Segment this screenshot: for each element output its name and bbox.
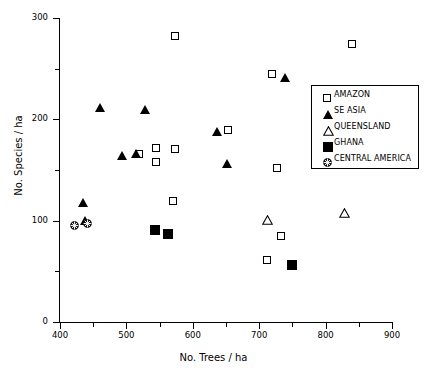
x-tick-minor [292, 323, 293, 327]
marker-circle-cross [323, 158, 332, 167]
x-tick-minor [359, 323, 360, 327]
marker-filled-square [150, 225, 160, 235]
legend-item-ghana[interactable]: GHANA [312, 134, 418, 150]
marker-filled-triangle [222, 159, 232, 168]
legend-item-amazon[interactable]: AMAZON [312, 86, 418, 102]
legend-label: SE ASIA [334, 106, 366, 115]
marker-open-square [263, 256, 271, 264]
x-tick-minor [160, 323, 161, 327]
y-tick [53, 221, 59, 222]
marker-filled-triangle [280, 73, 290, 82]
legend-marker-open-triangle-icon [320, 120, 334, 132]
x-tick-label: 500 [106, 331, 146, 340]
marker-open-square [171, 32, 179, 40]
y-tick-label: 0 [8, 317, 48, 326]
x-tick-label: 400 [40, 331, 80, 340]
y-axis-title: No. Species / ha [13, 76, 24, 236]
marker-filled-square [287, 260, 297, 270]
y-tick-minor [55, 271, 59, 272]
marker-circle-cross [83, 219, 92, 228]
x-tick-label: 900 [372, 331, 412, 340]
x-tick-label: 600 [173, 331, 213, 340]
marker-filled-triangle [78, 198, 88, 207]
x-tick [392, 323, 393, 329]
legend-label: AMAZON [334, 90, 370, 99]
y-tick [53, 322, 59, 323]
x-tick-label: 700 [239, 331, 279, 340]
marker-open-square [323, 94, 331, 102]
marker-filled-triangle [131, 149, 141, 158]
y-tick-minor [55, 170, 59, 171]
y-tick [53, 119, 59, 120]
marker-circle-cross [70, 221, 79, 230]
marker-open-square [171, 145, 179, 153]
marker-filled-triangle [95, 103, 105, 112]
x-tick [193, 323, 194, 329]
marker-open-square [169, 197, 177, 205]
marker-open-square [224, 126, 232, 134]
scatter-plot-figure: 0100200300 400500600700800900 No. Trees … [0, 0, 427, 378]
marker-open-square [348, 40, 356, 48]
marker-filled-triangle [117, 151, 127, 160]
x-tick-minor [93, 323, 94, 327]
plot-area [60, 18, 392, 322]
legend-label: CENTRAL AMERICA [334, 154, 411, 163]
marker-filled-triangle [140, 105, 150, 114]
x-tick-minor [226, 323, 227, 327]
marker-open-square [277, 232, 285, 240]
marker-open-square [273, 164, 281, 172]
legend: AMAZONSE ASIAQUEENSLANDGHANACENTRAL AMER… [311, 85, 419, 169]
marker-filled-triangle [212, 127, 222, 136]
x-tick-label: 800 [306, 331, 346, 340]
marker-filled-square [163, 229, 173, 239]
legend-item-se-asia[interactable]: SE ASIA [312, 102, 418, 118]
legend-marker-open-square-icon [320, 88, 334, 100]
legend-label: GHANA [334, 138, 364, 147]
legend-marker-filled-triangle-icon [320, 104, 334, 116]
y-tick [53, 18, 59, 19]
x-tick [326, 323, 327, 329]
x-tick [126, 323, 127, 329]
y-tick-minor [55, 69, 59, 70]
marker-open-square [152, 144, 160, 152]
marker-open-square [152, 158, 160, 166]
legend-marker-filled-square-icon [320, 136, 334, 148]
x-tick [259, 323, 260, 329]
legend-marker-circle-cross-icon [320, 152, 334, 164]
y-tick-label: 300 [8, 13, 48, 22]
x-axis-title: No. Trees / ha [0, 352, 427, 363]
legend-item-central-america[interactable]: CENTRAL AMERICA [312, 150, 418, 166]
legend-label: QUEENSLAND [334, 122, 391, 131]
marker-open-square [268, 70, 276, 78]
x-tick [60, 323, 61, 329]
legend-item-queensland[interactable]: QUEENSLAND [312, 118, 418, 134]
